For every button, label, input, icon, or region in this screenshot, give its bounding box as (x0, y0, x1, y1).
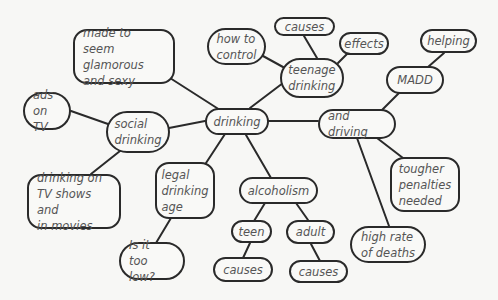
node-helping: helping (420, 29, 477, 53)
connector-drinking-teenage (250, 83, 283, 108)
node-label: ads on TV (33, 87, 61, 135)
node-label: made to seem glamorous and sexy (83, 25, 165, 89)
node-glam: made to seem glamorous and sexy (73, 29, 175, 84)
node-label: and driving (328, 108, 386, 140)
connector-teenage-causes_top (304, 36, 317, 58)
node-label: teenage drinking (288, 62, 335, 94)
node-drinking: drinking (205, 108, 269, 135)
node-toolow: Is it too low? (119, 242, 185, 280)
connector-madd-helping (428, 53, 444, 67)
node-label: legal drinking age (162, 167, 209, 215)
connector-anddriving-tougher (377, 138, 403, 158)
node-label: tougher penalties needed (399, 161, 452, 209)
node-alcoholism: alcoholism (239, 177, 318, 204)
connector-teen-causes_teen (243, 243, 250, 258)
node-tougher: tougher penalties needed (390, 157, 460, 212)
node-highrate: high rate of deaths (350, 226, 426, 263)
connector-drinking-glam (170, 78, 220, 110)
node-effects: effects (339, 32, 389, 55)
connector-drinking-legal (206, 134, 225, 163)
connector-anddriving-highrate (357, 138, 389, 226)
node-label: high rate of deaths (361, 229, 415, 261)
node-anddriving: and driving (318, 109, 396, 139)
node-causes_teen: causes (213, 257, 273, 282)
mind-map-canvas: drinkingsocial drinkingads on TVmade to … (0, 0, 498, 300)
connector-alcoholism-teen (254, 203, 265, 221)
node-howto: how to control (207, 28, 266, 65)
node-label: causes (299, 264, 339, 280)
node-label: drinking on TV shows and in movies (37, 170, 111, 234)
connector-drinking-alcoholism (246, 135, 271, 178)
node-label: drinking (214, 114, 261, 130)
node-teen: teen (231, 220, 272, 243)
connector-adult-causes_adult (311, 244, 320, 261)
node-adult: adult (286, 220, 335, 244)
node-legal: legal drinking age (155, 162, 215, 219)
connector-teenage-howto (263, 56, 283, 67)
node-ads: ads on TV (23, 92, 71, 130)
node-social: social drinking (106, 111, 170, 153)
node-tvshows: drinking on TV shows and in movies (27, 174, 121, 229)
node-madd: MADD (386, 66, 444, 94)
node-label: effects (344, 36, 383, 52)
node-label: social drinking (115, 116, 162, 148)
node-causes_top: causes (274, 17, 335, 36)
connector-drinking-social (169, 121, 205, 128)
node-label: how to control (216, 31, 256, 63)
node-label: MADD (397, 72, 433, 88)
connector-alcoholism-adult (296, 203, 308, 220)
node-label: causes (223, 262, 263, 278)
node-label: helping (427, 33, 470, 49)
node-label: causes (285, 19, 325, 35)
node-teenage: teenage drinking (280, 58, 344, 98)
node-label: alcoholism (248, 183, 310, 199)
node-causes_adult: causes (289, 260, 348, 283)
node-label: adult (296, 224, 325, 240)
node-label: teen (239, 224, 265, 240)
node-label: Is it too low? (129, 237, 175, 285)
connector-social-ads (71, 111, 108, 124)
